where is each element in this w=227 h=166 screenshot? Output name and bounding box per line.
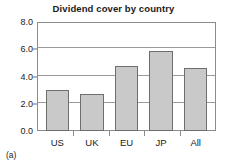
x-axis: USUKEUJPAll bbox=[37, 137, 216, 148]
x-tick-mark bbox=[109, 131, 110, 136]
bar-slot bbox=[178, 22, 213, 131]
bar-us[interactable] bbox=[46, 90, 70, 131]
y-tick-label: 0.0 bbox=[0, 126, 33, 136]
y-tick-label: 4.0 bbox=[0, 72, 33, 82]
bar-slot bbox=[40, 22, 75, 131]
chart-title: Dividend cover by country bbox=[0, 3, 227, 14]
x-tick-label-uk: UK bbox=[75, 137, 110, 148]
x-tick-mark bbox=[180, 131, 181, 136]
bar-slot bbox=[75, 22, 110, 131]
x-tick-label-all: All bbox=[178, 137, 213, 148]
bar-series bbox=[37, 22, 216, 131]
x-tick-label-us: US bbox=[40, 137, 75, 148]
subfigure-label: (a) bbox=[6, 150, 16, 160]
bar-all[interactable] bbox=[184, 68, 208, 131]
bar-jp[interactable] bbox=[149, 51, 173, 131]
y-tick-label: 6.0 bbox=[0, 44, 33, 54]
x-tick-mark bbox=[144, 131, 145, 136]
bar-eu[interactable] bbox=[115, 66, 139, 131]
bar-uk[interactable] bbox=[80, 94, 104, 131]
x-tick-label-eu: EU bbox=[109, 137, 144, 148]
x-tick-label-jp: JP bbox=[144, 137, 179, 148]
x-axis-ticks bbox=[37, 131, 216, 136]
x-tick-mark bbox=[73, 131, 74, 136]
bar-slot bbox=[109, 22, 144, 131]
y-tick-label: 8.0 bbox=[0, 17, 33, 27]
y-tick-label: 2.0 bbox=[0, 99, 33, 109]
y-axis: 0.02.04.06.08.0 bbox=[0, 22, 33, 131]
bar-slot bbox=[144, 22, 179, 131]
chart-figure: Dividend cover by country 0.02.04.06.08.… bbox=[0, 0, 227, 166]
